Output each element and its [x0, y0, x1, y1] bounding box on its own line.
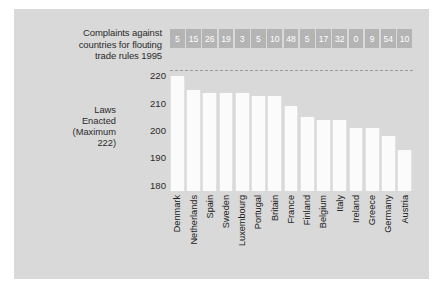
y-axis-tick-label: 180	[126, 180, 166, 191]
category-label-text: Portugal	[253, 195, 263, 229]
complaints-label-line-3: trade rules 1995	[22, 50, 162, 62]
chart-panel: Complaints against countries for floutin…	[14, 9, 429, 279]
complaints-label-line-2: countries for flouting	[22, 39, 162, 51]
x-axis-category-label: Sweden	[219, 193, 234, 263]
complaint-count-badge: 54	[381, 29, 396, 48]
bar	[251, 96, 266, 191]
x-axis-category-label: France	[284, 193, 299, 263]
y-axis-ticks: 180190200210220	[118, 71, 166, 191]
bar	[349, 128, 364, 191]
x-axis-category-label: Greece	[365, 193, 380, 263]
category-label-text: Italy	[335, 195, 345, 212]
complaints-header-label: Complaints against countries for floutin…	[22, 27, 162, 62]
y-axis-tick-label: 210	[126, 98, 166, 109]
category-label-text: Belgium	[318, 195, 328, 228]
bar	[267, 96, 282, 191]
category-label-text: Netherlands	[189, 195, 199, 245]
y-axis-title: Laws Enacted (Maximum 222)	[44, 105, 116, 149]
complaint-count-badge: 0	[349, 29, 364, 48]
category-label-text: Britain	[270, 195, 280, 221]
category-label-text: France	[286, 195, 296, 224]
x-axis-category-label: Luxembourg	[235, 193, 250, 263]
complaint-count-badge: 5	[170, 29, 185, 48]
x-axis-category-label: Belgium	[316, 193, 331, 263]
complaint-count-badge: 10	[397, 29, 412, 48]
bar	[300, 117, 315, 191]
x-axis-category-label: Netherlands	[186, 193, 201, 263]
complaint-count-badge: 5	[300, 29, 315, 48]
category-label-text: Denmark	[172, 195, 182, 232]
category-label-text: Finland	[302, 195, 312, 225]
bar	[397, 150, 412, 191]
bar	[381, 136, 396, 191]
complaint-count-badge: 5	[251, 29, 266, 48]
x-axis-category-label: Britain	[267, 193, 282, 263]
category-label-text: Sweden	[221, 195, 231, 228]
complaint-count-badge: 19	[219, 29, 234, 48]
x-axis-category-label: Italy	[332, 193, 347, 263]
y-axis-title-line-3: (Maximum	[44, 127, 116, 138]
category-label-text: Germany	[383, 195, 393, 233]
x-axis-category-label: Ireland	[349, 193, 364, 263]
x-axis-category-label: Germany	[381, 193, 396, 263]
complaint-count-badge: 26	[202, 29, 217, 48]
complaint-count-badge: 10	[267, 29, 282, 48]
x-axis-category-label: Denmark	[170, 193, 185, 263]
bars-plot-area	[170, 71, 412, 191]
bar	[219, 93, 234, 191]
bar	[170, 76, 185, 191]
bar	[284, 106, 299, 191]
category-label-text: Ireland	[351, 195, 361, 223]
category-label-text: Luxembourg	[237, 195, 247, 246]
complaints-header-row: Complaints against countries for floutin…	[14, 27, 429, 63]
y-axis-title-line-2: Enacted	[44, 116, 116, 127]
bar	[202, 93, 217, 191]
complaint-count-badge: 48	[284, 29, 299, 48]
complaints-badge-list: 515261935104851732095410	[170, 29, 412, 48]
y-axis-tick-label: 190	[126, 152, 166, 163]
y-axis-tick-label: 200	[126, 125, 166, 136]
bar	[365, 128, 380, 191]
y-axis-title-line-4: 222)	[44, 138, 116, 149]
bar	[235, 93, 250, 191]
complaint-count-badge: 32	[332, 29, 347, 48]
category-label-text: Austria	[400, 195, 410, 224]
complaint-count-badge: 3	[235, 29, 250, 48]
x-axis-category-label: Spain	[202, 193, 217, 263]
category-label-text: Spain	[205, 195, 215, 219]
complaint-count-badge: 15	[186, 29, 201, 48]
bar	[186, 90, 201, 191]
x-axis-category-label: Austria	[397, 193, 412, 263]
complaint-count-badge: 17	[316, 29, 331, 48]
category-label-text: Greece	[367, 195, 377, 225]
bar	[316, 120, 331, 191]
x-axis-category-label: Finland	[300, 193, 315, 263]
complaint-count-badge: 9	[365, 29, 380, 48]
y-axis-title-line-1: Laws	[44, 105, 116, 116]
complaints-label-line-1: Complaints against	[22, 27, 162, 39]
y-axis-tick-label: 220	[126, 70, 166, 81]
x-axis-category-label: Portugal	[251, 193, 266, 263]
x-axis-category-labels: DenmarkNetherlandsSpainSwedenLuxembourgP…	[170, 193, 412, 263]
bar	[332, 120, 347, 191]
